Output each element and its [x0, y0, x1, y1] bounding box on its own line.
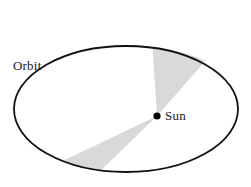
upper-right-sector	[153, 47, 206, 116]
sun-marker-icon	[153, 112, 160, 119]
orbit-diagram-canvas	[0, 0, 251, 187]
orbit-label: Orbit	[13, 58, 41, 74]
orbit-diagram: Orbit Sun	[0, 0, 251, 187]
orbit-ellipse	[14, 46, 238, 172]
sun-label: Sun	[165, 108, 186, 124]
lower-left-sector	[62, 116, 158, 171]
